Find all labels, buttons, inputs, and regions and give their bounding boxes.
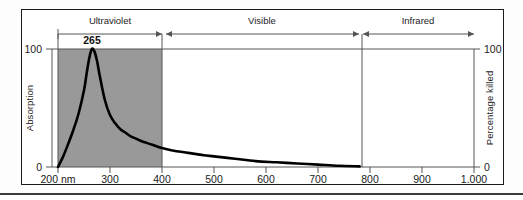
spectral-region-indicators [58,29,474,39]
infrared-range-right-arrowhead [468,31,474,37]
y-axis-right-title: Percentage killed [484,71,495,146]
x-tick-label-400: 400 [153,173,171,183]
x-tick-label-200: 200 nm [40,173,75,183]
y-axis-left-title: Absorption [24,85,35,131]
ultraviolet-range-arrowhead [156,31,162,37]
spectrum-chart: Ultraviolet Visible Infrared 100 0 Absor… [22,10,502,183]
y-axis-right-tick-label-100: 100 [484,43,502,55]
x-tick-label-1000: 1,000 [461,173,487,183]
chart-frame: Ultraviolet Visible Infrared 100 0 Absor… [21,9,504,185]
x-tick-label-600: 600 [257,173,275,183]
y-axis-left-tick-label-100: 100 [24,43,42,55]
region-label-visible: Visible [248,15,276,26]
bottom-rule [0,193,523,195]
x-tick-label-300: 300 [101,173,119,183]
x-tick-label-800: 800 [361,173,379,183]
x-tick-label-700: 700 [309,173,327,183]
figure-root: Ultraviolet Visible Infrared 100 0 Absor… [0,0,523,200]
region-label-infrared: Infrared [402,15,435,26]
region-label-ultraviolet: Ultraviolet [89,15,132,26]
y-axis-right-tick-label-0: 0 [484,161,490,173]
ultraviolet-band-shading [58,49,162,167]
visible-range-right-arrowhead [353,31,359,37]
x-tick-label-500: 500 [205,173,223,183]
x-tick-label-900: 900 [413,173,431,183]
peak-annotation-265: 265 [83,34,101,46]
y-axis-left-tick-label-0: 0 [36,161,42,173]
